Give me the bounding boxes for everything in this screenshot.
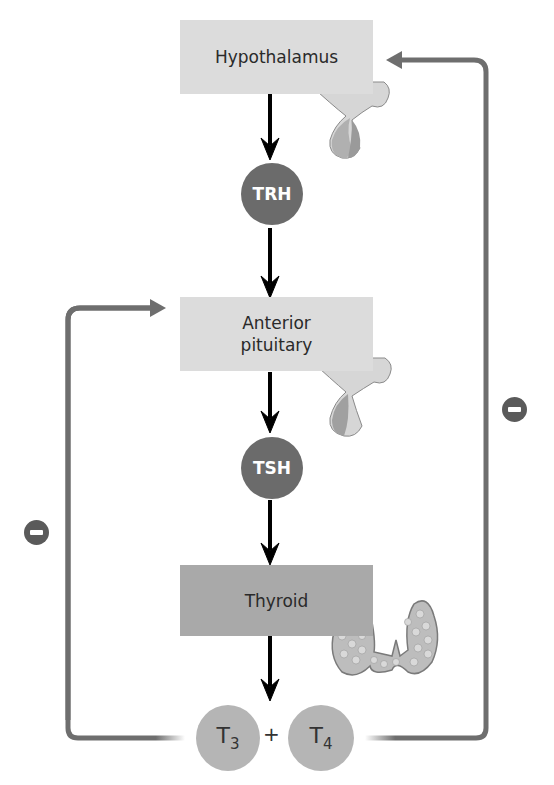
t3-circle: T3	[196, 705, 260, 771]
thyroid-label: Thyroid	[245, 590, 309, 612]
inhibition-minus-icon-left	[24, 520, 49, 545]
thyroid-box: Thyroid	[180, 565, 373, 636]
arrowhead-to-hypothalamus-icon	[386, 51, 402, 69]
t4-circle: T4	[288, 705, 354, 771]
thyroid-feedback-diagram: Hypothalamus TRH Anterior pituitary TSH …	[0, 0, 554, 785]
arrows-layer	[0, 0, 554, 785]
anterior-pituitary-label-line1: Anterior	[242, 312, 311, 334]
hypothalamus-box: Hypothalamus	[180, 20, 373, 94]
anterior-pituitary-label-line2: pituitary	[241, 334, 313, 356]
tsh-circle: TSH	[241, 437, 303, 499]
hypothalamus-label: Hypothalamus	[215, 46, 338, 68]
arrowhead-to-pituitary-icon	[150, 299, 166, 317]
inhibition-minus-icon-right	[502, 397, 527, 422]
trh-circle: TRH	[241, 163, 303, 225]
feedback-loop-left	[68, 299, 185, 738]
trh-label: TRH	[253, 184, 292, 204]
t3-label: T3	[217, 723, 240, 753]
anterior-pituitary-box: Anterior pituitary	[180, 297, 373, 371]
plus-sign: +	[263, 722, 280, 746]
tsh-label: TSH	[253, 458, 291, 478]
t4-label: T4	[310, 723, 333, 753]
